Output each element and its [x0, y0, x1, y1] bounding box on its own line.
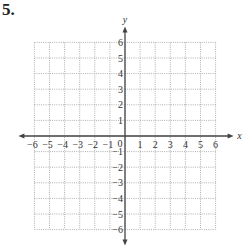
- y-tick-label: −2: [112, 162, 123, 173]
- x-axis-label: x: [236, 130, 242, 141]
- coordinate-plane: xy−6−5−4−3−2−11234560654321−1−2−3−4−5−6: [0, 0, 243, 246]
- x-tick-label: −4: [57, 139, 68, 150]
- x-tick-label: 5: [198, 139, 203, 150]
- x-axis-left-arrow-icon: [18, 134, 24, 139]
- x-tick-label: −3: [72, 139, 83, 150]
- y-axis-up-arrow-icon: [123, 26, 128, 32]
- y-tick-label: 3: [118, 84, 123, 95]
- x-axis-right-arrow-icon: [228, 134, 234, 139]
- x-tick-label: 4: [183, 139, 188, 150]
- y-tick-label: −5: [112, 209, 123, 220]
- y-tick-label: 2: [118, 99, 123, 110]
- y-tick-label: 4: [118, 68, 123, 79]
- axes: [18, 26, 233, 245]
- y-tick-label: −3: [112, 177, 123, 188]
- x-tick-label: 2: [153, 139, 158, 150]
- x-tick-label: 3: [168, 139, 173, 150]
- x-tick-label: −6: [27, 139, 38, 150]
- x-tick-label: −5: [42, 139, 53, 150]
- x-tick-label: 1: [138, 139, 143, 150]
- y-tick-label: −4: [112, 193, 123, 204]
- x-tick-label: 6: [213, 139, 218, 150]
- y-tick-label: 1: [118, 115, 123, 126]
- y-tick-label: −6: [112, 224, 123, 235]
- y-tick-label: 5: [118, 53, 123, 64]
- tick-labels: xy−6−5−4−3−2−11234560654321−1−2−3−4−5−6: [27, 14, 242, 235]
- y-tick-label: 6: [118, 37, 123, 48]
- y-tick-label: −1: [112, 146, 123, 157]
- y-axis-down-arrow-icon: [123, 240, 128, 246]
- y-axis-label: y: [122, 14, 128, 25]
- x-tick-label: −2: [87, 139, 98, 150]
